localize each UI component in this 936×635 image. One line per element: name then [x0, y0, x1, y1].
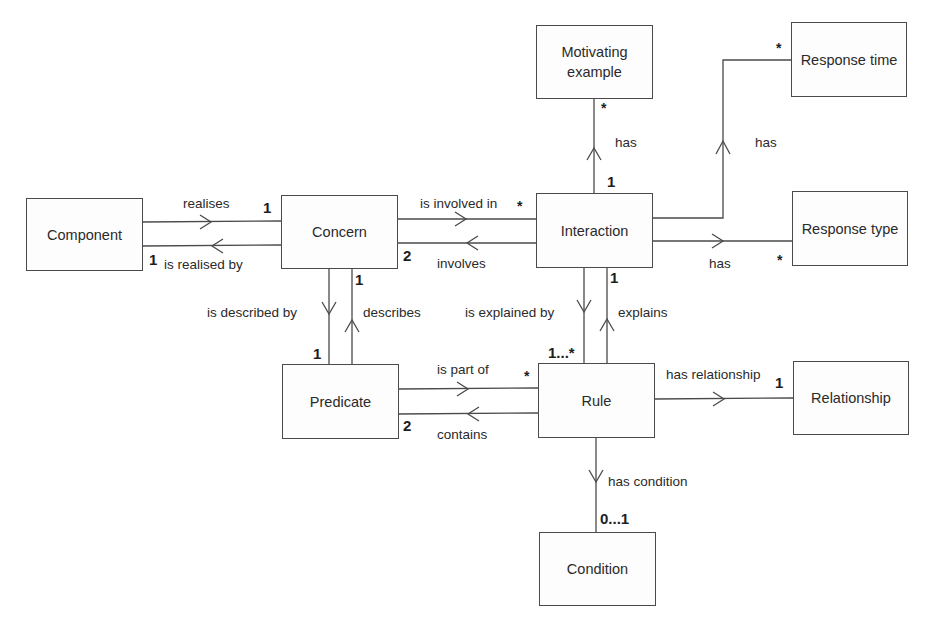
class-label: Relationship: [811, 388, 891, 408]
class-predicate: Predicate: [282, 364, 399, 439]
label-has-response-time: has: [755, 135, 777, 151]
class-concern: Concern: [281, 195, 398, 269]
class-label: Motivating example: [559, 42, 630, 82]
class-response-time: Response time: [791, 22, 907, 97]
class-label: Predicate: [310, 392, 371, 412]
class-motivating-example: Motivating example: [536, 25, 653, 99]
multiplicity-realises: 1: [263, 200, 271, 216]
class-label: Rule: [582, 391, 612, 411]
label-has-response-type: has: [709, 256, 731, 272]
label-has-condition: has condition: [608, 474, 688, 490]
multiplicity-is-involved-in: *: [517, 199, 522, 213]
label-is-involved-in: is involved in: [420, 196, 497, 212]
multiplicity-has-condition: 0...1: [600, 511, 629, 527]
multiplicity-explains: 1: [610, 270, 618, 286]
label-realises: realises: [183, 196, 230, 212]
label-is-part-of: is part of: [437, 362, 489, 378]
multiplicity-is-realised-by: 1: [149, 252, 157, 268]
multiplicity-describes-concern: 1: [355, 272, 363, 288]
class-interaction: Interaction: [536, 193, 653, 268]
class-label: Condition: [567, 559, 628, 579]
multiplicity-contains: 2: [403, 418, 411, 434]
label-has-motivating-example: has: [615, 135, 637, 151]
class-label: Response type: [802, 219, 899, 239]
class-label: Response time: [801, 50, 898, 70]
label-is-realised-by: is realised by: [164, 257, 243, 273]
label-explains: explains: [618, 305, 668, 321]
label-contains: contains: [437, 427, 487, 443]
multiplicity-is-part-of: *: [524, 369, 529, 383]
label-involves: involves: [437, 256, 486, 272]
multiplicity-has-relationship: 1: [775, 375, 783, 391]
label-is-explained-by: is explained by: [465, 305, 554, 321]
uml-diagram: Component Concern Interaction Motivating…: [0, 0, 936, 635]
multiplicity-is-explained-by: 1...*: [548, 345, 575, 361]
multiplicity-involves: 2: [403, 248, 411, 264]
class-label: Component: [47, 225, 122, 245]
multiplicity-interaction-has: 1: [607, 174, 615, 190]
class-label: Interaction: [561, 221, 629, 241]
multiplicity-response-type: *: [777, 253, 782, 267]
class-label: Concern: [312, 222, 367, 242]
class-condition: Condition: [539, 532, 656, 606]
label-describes: describes: [363, 305, 421, 321]
multiplicity-is-described-by: 1: [313, 346, 321, 362]
multiplicity-motivating-example: *: [601, 101, 606, 115]
class-component: Component: [26, 198, 143, 271]
class-rule: Rule: [538, 363, 655, 438]
label-is-described-by: is described by: [207, 305, 297, 321]
label-has-relationship: has relationship: [666, 367, 761, 383]
class-response-type: Response type: [792, 191, 908, 266]
multiplicity-response-time: *: [776, 41, 781, 55]
class-relationship: Relationship: [793, 361, 909, 435]
